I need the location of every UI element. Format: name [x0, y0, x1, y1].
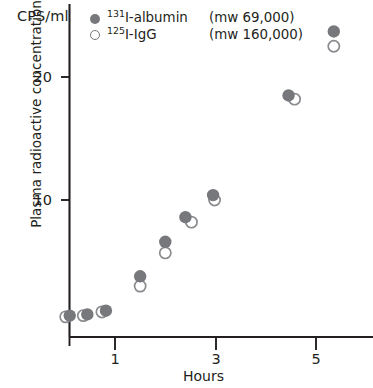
x-tick-label-3: 3 — [206, 351, 226, 367]
data-point-albumin — [64, 309, 76, 321]
x-axis-title: Hours — [183, 368, 224, 384]
data-point-albumin — [179, 211, 191, 223]
data-point-igg — [328, 41, 339, 52]
data-point-albumin — [159, 236, 171, 248]
x-axis-title-container: Hours — [0, 368, 373, 384]
x-tick-label-1: 1 — [105, 351, 125, 367]
data-point-albumin — [134, 270, 146, 282]
y-tick-label-10: 10 — [14, 192, 52, 208]
x-tick-label-5: 5 — [306, 351, 326, 367]
data-point-albumin — [207, 189, 219, 201]
data-point-albumin — [100, 305, 112, 317]
data-marker-group — [60, 25, 340, 322]
data-point-igg — [160, 247, 171, 258]
plot-area — [0, 0, 373, 388]
data-point-albumin — [282, 89, 294, 101]
data-point-albumin — [328, 25, 340, 37]
y-tick-label-20: 20 — [14, 69, 52, 85]
data-point-albumin — [81, 308, 93, 320]
scatter-chart-figure: CPS/ml Plasma radioactive concentration … — [0, 0, 373, 388]
